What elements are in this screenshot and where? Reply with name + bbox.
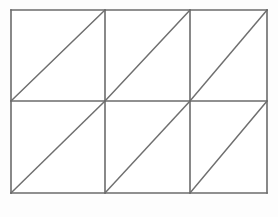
triangulated-grid-diagram: [0, 0, 278, 217]
figure-canvas: [0, 0, 278, 217]
